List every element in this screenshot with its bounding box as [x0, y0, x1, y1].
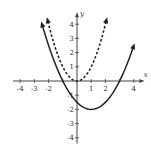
tick-labels: -4-3-21244321-1-2-3-4xy: [17, 10, 148, 143]
x-tick-label: 4: [132, 85, 137, 93]
x-tick-label: -2: [45, 85, 52, 93]
y-tick-label: 2: [70, 49, 74, 57]
dashed-right-arrow-icon: [103, 17, 108, 23]
graph-container: -4-3-21244321-1-2-3-4xy: [0, 0, 151, 151]
y-tick-label: 4: [70, 21, 75, 29]
x-axis-arrow-icon: [139, 79, 144, 83]
x-tick-label: 2: [103, 85, 107, 93]
solid-parabola: [42, 25, 133, 110]
y-axis-label: y: [79, 10, 85, 18]
y-tick-label: -3: [67, 120, 74, 128]
y-tick-label: -2: [67, 106, 74, 114]
y-tick-label: 1: [70, 63, 74, 71]
y-tick-label: -1: [67, 92, 74, 100]
parabola-graph: -4-3-21244321-1-2-3-4xy: [0, 0, 151, 151]
y-tick-label: 3: [70, 35, 74, 43]
x-tick-label: -4: [17, 85, 24, 93]
solid-right-arrow-icon: [130, 43, 135, 50]
x-tick-label: 1: [89, 85, 93, 93]
dashed-left-arrow-icon: [46, 17, 51, 23]
curves: [40, 17, 135, 109]
y-tick-label: -4: [67, 134, 74, 142]
solid-left-arrow-icon: [40, 21, 45, 27]
x-axis-label: x: [144, 71, 148, 79]
axes: [13, 12, 144, 143]
y-axis-arrow-icon: [75, 12, 79, 17]
x-tick-label: -3: [31, 85, 38, 93]
